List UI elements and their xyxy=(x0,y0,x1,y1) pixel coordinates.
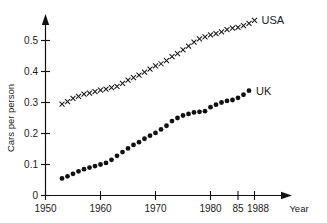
datapoint-dot-marker xyxy=(131,143,136,148)
y-tick-label-4: 0.4 xyxy=(24,66,38,77)
series-uk-datapoints xyxy=(60,88,252,181)
y-tick-label-5: 0.5 xyxy=(24,35,38,46)
x-tick-label-1960: 1960 xyxy=(89,203,112,214)
datapoint-dot-marker xyxy=(159,127,164,132)
datapoint-x-marker xyxy=(186,44,191,49)
y-tick-labels: 0 0.1 0.2 0.3 0.4 0.5 xyxy=(24,35,38,201)
datapoint-dot-marker xyxy=(120,150,125,155)
datapoint-x-marker xyxy=(60,102,65,107)
datapoint-x-marker xyxy=(164,58,169,63)
datapoint-dot-marker xyxy=(76,169,81,174)
datapoint-dot-marker xyxy=(181,113,186,118)
datapoint-dot-marker xyxy=(104,161,109,166)
datapoint-dot-marker xyxy=(71,171,76,176)
datapoint-x-marker xyxy=(203,34,208,39)
datapoint-x-marker xyxy=(170,54,175,59)
datapoint-x-marker xyxy=(230,26,235,31)
datapoint-x-marker xyxy=(76,94,81,99)
datapoint-x-marker xyxy=(197,36,202,41)
datapoint-x-marker xyxy=(252,18,257,23)
datapoint-dot-marker xyxy=(186,112,191,117)
datapoint-x-marker xyxy=(137,73,142,78)
x-axis-arrowhead xyxy=(281,192,292,199)
datapoint-dot-marker xyxy=(153,130,158,135)
datapoint-dot-marker xyxy=(137,140,142,145)
x-tick-labels: 1950 1960 1970 1980 85 1988 xyxy=(34,203,269,214)
datapoint-dot-marker xyxy=(109,157,114,162)
datapoint-dot-marker xyxy=(170,119,175,124)
datapoint-dot-marker xyxy=(164,123,169,128)
datapoint-x-marker xyxy=(109,85,114,90)
datapoint-x-marker xyxy=(82,92,87,97)
datapoint-x-marker xyxy=(87,91,92,96)
datapoint-dot-marker xyxy=(93,164,98,169)
datapoint-x-marker xyxy=(219,29,224,34)
datapoint-x-marker xyxy=(181,47,186,52)
x-tick-label-1970: 1970 xyxy=(144,203,167,214)
datapoint-x-marker xyxy=(247,21,252,26)
datapoint-x-marker xyxy=(131,75,136,80)
series-label-usa: USA xyxy=(262,14,285,26)
y-axis-title: Cars per person xyxy=(5,84,16,152)
datapoint-x-marker xyxy=(236,25,241,30)
datapoint-x-marker xyxy=(159,61,164,66)
series-usa-datapoints xyxy=(60,18,258,107)
x-tick-label-1988: 1988 xyxy=(247,203,270,214)
datapoint-x-marker xyxy=(175,51,180,56)
datapoint-dot-marker xyxy=(65,174,70,179)
datapoint-x-marker xyxy=(93,89,98,94)
datapoint-dot-marker xyxy=(175,116,180,121)
datapoint-x-marker xyxy=(126,78,131,83)
y-tick-label-1: 0.1 xyxy=(24,159,38,170)
datapoint-dot-marker xyxy=(230,98,235,103)
datapoint-dot-marker xyxy=(60,176,65,181)
datapoint-dot-marker xyxy=(247,88,252,93)
x-axis-title: Year xyxy=(289,203,308,214)
datapoint-dot-marker xyxy=(203,109,208,114)
datapoint-x-marker xyxy=(192,40,197,45)
datapoint-x-marker xyxy=(115,84,120,89)
datapoint-x-marker xyxy=(65,99,70,104)
datapoint-x-marker xyxy=(142,70,147,75)
datapoint-x-marker xyxy=(153,63,158,68)
datapoint-dot-marker xyxy=(236,95,241,100)
datapoint-dot-marker xyxy=(115,153,120,158)
x-tick-label-1980: 1980 xyxy=(199,203,222,214)
datapoint-x-marker xyxy=(214,31,219,36)
datapoint-x-marker xyxy=(98,88,103,93)
x-tick-label-1985: 85 xyxy=(232,203,244,214)
datapoint-dot-marker xyxy=(87,165,92,170)
y-tick-label-3: 0.3 xyxy=(24,97,38,108)
datapoint-dot-marker xyxy=(148,133,153,138)
datapoint-dot-marker xyxy=(219,100,224,105)
datapoint-dot-marker xyxy=(126,146,131,151)
y-tick-label-2: 0.2 xyxy=(24,128,38,139)
datapoint-x-marker xyxy=(208,32,213,37)
y-axis xyxy=(42,14,49,196)
datapoint-dot-marker xyxy=(82,167,87,172)
datapoint-x-marker xyxy=(225,27,230,32)
datapoint-x-marker xyxy=(148,67,153,72)
datapoint-x-marker xyxy=(241,23,246,28)
cars-per-person-scatter-chart: 0 0.1 0.2 0.3 0.4 0.5 1950 1960 1970 198… xyxy=(0,0,327,223)
datapoint-dot-marker xyxy=(225,99,230,104)
datapoint-dot-marker xyxy=(98,162,103,167)
datapoint-x-marker xyxy=(104,87,109,92)
datapoint-x-marker xyxy=(120,81,125,86)
datapoint-dot-marker xyxy=(192,110,197,115)
y-axis-arrowhead xyxy=(42,14,49,25)
chart-container: 0 0.1 0.2 0.3 0.4 0.5 1950 1960 1970 198… xyxy=(0,0,327,223)
y-tick-label-0: 0 xyxy=(32,190,38,201)
series-label-uk: UK xyxy=(256,85,272,97)
x-tick-label-1950: 1950 xyxy=(34,203,57,214)
datapoint-dot-marker xyxy=(208,105,213,110)
datapoint-dot-marker xyxy=(142,136,147,141)
datapoint-dot-marker xyxy=(197,109,202,114)
datapoint-dot-marker xyxy=(241,92,246,97)
datapoint-dot-marker xyxy=(214,102,219,107)
datapoint-x-marker xyxy=(71,96,76,101)
